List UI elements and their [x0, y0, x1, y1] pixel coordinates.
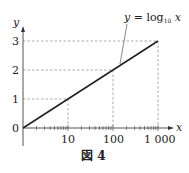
- x-tick-label: 1 000: [144, 134, 176, 145]
- figure-caption: 図 4: [81, 150, 106, 162]
- annotation-x: x: [171, 11, 181, 24]
- log-chart: y x 3 2 1 0 10 100 1 000 y = log10 x 図 4: [0, 0, 189, 173]
- y-axis-label: y: [13, 17, 19, 28]
- y-tick-label: 1: [12, 94, 19, 105]
- y-tick-label: 3: [12, 36, 19, 47]
- annotation-eq: = log: [130, 11, 163, 24]
- x-axis-label: x: [176, 122, 182, 133]
- y-tick-label: 0: [12, 123, 19, 134]
- annotation-leader: [120, 24, 127, 64]
- curve-annotation: y = log10 x: [124, 12, 181, 24]
- x-tick-label: 10: [61, 134, 75, 145]
- x-tick-label: 100: [103, 134, 124, 145]
- y-tick-label: 2: [12, 65, 19, 76]
- series-line-log10: [23, 41, 158, 128]
- x-axis-arrow-icon: [168, 126, 174, 130]
- chart-canvas: [0, 0, 189, 173]
- y-axis-arrow-icon: [21, 26, 25, 32]
